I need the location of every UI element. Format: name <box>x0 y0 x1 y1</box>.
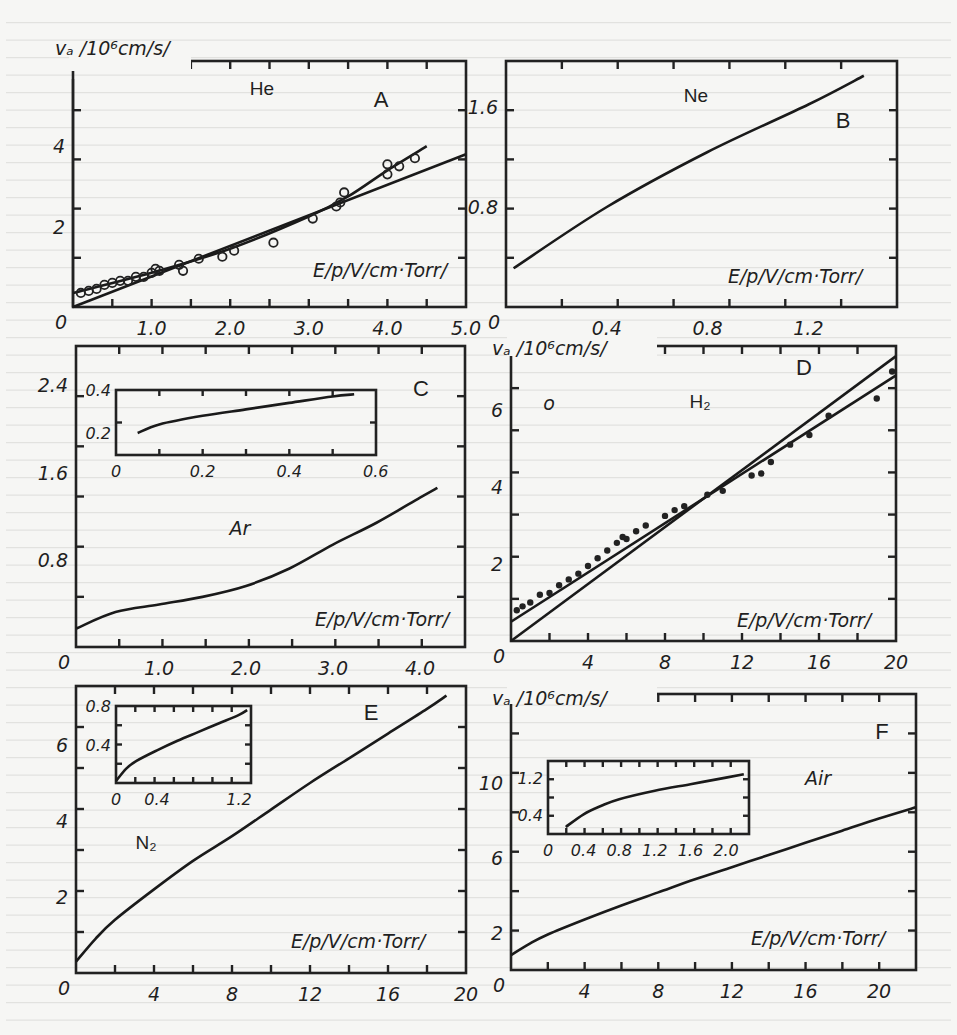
x-axis-label: E/p/V/cm·Torr/ <box>291 930 428 952</box>
inset-x-tick-label: 1.2 <box>226 790 251 809</box>
data-point-filled <box>787 441 793 447</box>
data-point-filled <box>546 590 552 596</box>
y-tick-label: 10 <box>479 772 503 794</box>
bleed-line <box>6 810 951 811</box>
bleed-line <box>6 827 951 828</box>
gas-label: N₂ <box>135 832 156 853</box>
x-tick-label: 4 <box>148 983 160 1005</box>
bleed-line <box>6 722 951 723</box>
x-tick-label: 8 <box>652 980 664 1002</box>
data-point-open <box>340 188 348 196</box>
bleed-line <box>6 180 951 181</box>
inset-x-tick-label: 0 <box>543 841 553 860</box>
data-point-filled <box>594 555 600 561</box>
y-tick-label: 4 <box>491 476 503 498</box>
data-point-filled <box>720 488 726 494</box>
data-point-filled <box>825 413 831 419</box>
y-tick-label: 2 <box>53 216 65 238</box>
data-point-filled <box>768 459 774 465</box>
x-axis-label: E/p/V/cm·Torr/ <box>315 608 452 630</box>
inset-x-tick-label: 0.4 <box>571 841 596 860</box>
bleed-line <box>6 915 951 916</box>
data-point-open <box>411 154 419 162</box>
inset-x-tick-label: 0.4 <box>276 462 301 481</box>
data-point-filled <box>575 570 581 576</box>
data-point-filled <box>806 432 812 438</box>
curve-line <box>511 375 896 621</box>
bleed-line <box>6 967 951 968</box>
stray-mark: o <box>543 392 555 414</box>
inset-curve <box>116 710 247 781</box>
data-point-filled <box>889 368 895 374</box>
panel-letter: F <box>875 719 888 744</box>
data-point-filled <box>681 503 687 509</box>
x-tick-label: 12 <box>720 980 744 1002</box>
data-point-open <box>383 160 391 168</box>
gas-label: H₂ <box>689 391 710 412</box>
bleed-line <box>6 407 951 408</box>
bleed-line <box>6 897 951 898</box>
panel-letter: E <box>364 700 379 725</box>
inset-frame <box>116 390 376 455</box>
data-point-filled <box>556 582 562 588</box>
data-point-filled <box>585 563 591 569</box>
x-tick-label: 0.8 <box>692 317 722 339</box>
y-tick-label: 4 <box>56 810 68 832</box>
gas-label: Ne <box>684 85 708 106</box>
bleed-line <box>6 92 951 93</box>
data-point-filled <box>623 536 629 542</box>
inset-x-tick-label: 0.8 <box>606 841 631 860</box>
data-point-filled <box>662 513 668 519</box>
y-tick-label: 2 <box>491 922 503 944</box>
bleed-line <box>6 635 951 636</box>
x-tick-label: 8 <box>659 651 671 673</box>
x-tick-label: 2.0 <box>231 657 261 679</box>
inset-x-tick-label: 0 <box>111 790 121 809</box>
data-point-filled <box>633 528 639 534</box>
inset-x-tick-label: 0 <box>111 462 121 481</box>
inset-x-tick-label: 0.4 <box>144 790 169 809</box>
bleed-line <box>6 880 951 881</box>
bleed-line <box>6 127 951 128</box>
data-point-filled <box>874 395 880 401</box>
x-tick-label: 12 <box>730 651 754 673</box>
x-axis-label: E/p/V/cm·Torr/ <box>751 927 888 949</box>
x-tick-label: 3.0 <box>318 657 348 679</box>
data-point-filled <box>604 547 610 553</box>
data-point-filled <box>537 592 543 598</box>
y-tick-label: 6 <box>491 399 503 421</box>
x-zero-label: 0 <box>58 977 70 999</box>
x-tick-label: 12 <box>298 983 322 1005</box>
bleed-line <box>6 757 951 758</box>
x-tick-label: 5.0 <box>451 317 481 339</box>
bleed-line <box>6 425 951 426</box>
bleed-line <box>6 582 951 583</box>
y-tick-label: 0.8 <box>38 549 68 571</box>
x-zero-label: 0 <box>55 311 67 333</box>
y-tick-label: 6 <box>56 734 68 756</box>
bleed-line <box>6 740 951 741</box>
x-tick-label: 20 <box>884 651 908 673</box>
data-point-filled <box>704 492 710 498</box>
x-tick-label: 20 <box>454 983 478 1005</box>
y-tick-label: 4 <box>53 135 65 157</box>
inset-curve <box>138 394 355 433</box>
bleed-line <box>6 950 951 951</box>
y-tick-label: 2 <box>491 553 503 575</box>
x-tick-label: 16 <box>793 980 817 1002</box>
panel-b: 0.40.81.200.81.6E/p/V/cm·Torr/NeB <box>468 61 897 339</box>
inset-x-tick-label: 0.6 <box>363 462 388 481</box>
bleed-line <box>6 477 951 478</box>
bleed-line <box>6 22 951 23</box>
x-tick-label: 1.0 <box>144 657 174 679</box>
x-tick-label: 16 <box>376 983 400 1005</box>
x-tick-label: 2.0 <box>215 317 245 339</box>
x-tick-label: 4.0 <box>372 317 402 339</box>
curve-line <box>76 696 447 962</box>
panel-letter: D <box>796 355 812 380</box>
panel-f: vₐ /10⁶cm/s/00.40.81.21.62.00.41.2481216… <box>479 684 916 1002</box>
bleed-line <box>6 600 951 601</box>
panel-a: vₐ /10⁶cm/s/1.02.03.04.05.0024E/p/V/cm·T… <box>53 37 481 339</box>
x-tick-label: 16 <box>807 651 831 673</box>
data-point-filled <box>758 470 764 476</box>
